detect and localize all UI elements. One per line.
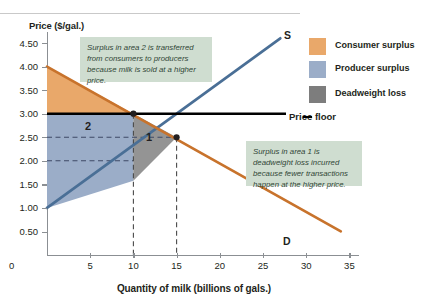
x-tick-20: [220, 253, 221, 258]
legend-item-price-floor: [303, 110, 431, 124]
legend-label-deadweight-loss: Deadweight loss: [335, 88, 406, 98]
y-tick-label-450: 4.50: [8, 38, 38, 49]
x-tick-30: [306, 253, 307, 258]
point-equilibrium: [174, 134, 180, 140]
deadweight-loss-swatch: [309, 86, 326, 103]
y-tick-450: [42, 43, 47, 44]
producer-surplus-swatch: [309, 61, 326, 78]
y-tick-label-150: 1.50: [8, 179, 38, 190]
x-tick-label-20: 20: [208, 260, 232, 271]
y-tick-250: [42, 137, 47, 138]
x-tick-35: [349, 253, 350, 258]
y-tick-label-300: 3.00: [8, 108, 38, 119]
legend-label-producer-surplus: Producer surplus: [335, 63, 410, 73]
y-tick-150: [42, 184, 47, 185]
y-tick-label-400: 4.00: [8, 61, 38, 72]
x-tick-label-15: 15: [165, 260, 189, 271]
x-tick-label-0: 0: [9, 260, 14, 271]
area-label-1: 1: [146, 131, 152, 143]
point-quantity-demanded-at-floor: [130, 111, 136, 117]
y-tick-300: [42, 114, 47, 115]
demand-curve-label: D: [283, 235, 291, 247]
y-tick-label-250: 2.50: [8, 132, 38, 143]
y-tick-label-050: 0.50: [8, 226, 38, 237]
x-tick-label-25: 25: [251, 260, 275, 271]
y-tick-100: [42, 208, 47, 209]
y-tick-050: [42, 232, 47, 233]
x-tick-15: [177, 253, 178, 258]
legend-item-consumer-surplus: Consumer surplus: [309, 37, 431, 60]
supply-curve-label: S: [284, 29, 291, 41]
x-tick-label-35: 35: [337, 260, 361, 271]
y-tick-label-200: 2.00: [8, 155, 38, 166]
x-tick-10: [133, 253, 134, 258]
price-floor-legend-line: [303, 116, 312, 118]
annotation-deadweight: Surplus in area 1 is deadweight loss inc…: [246, 141, 362, 186]
annotation-transfer: Surplus in area 2 is transferred from co…: [80, 37, 212, 82]
legend-label-consumer-surplus: Consumer surplus: [335, 40, 415, 50]
y-tick-350: [42, 90, 47, 91]
deadweight-loss-area: [133, 114, 176, 181]
legend-item-producer-surplus: Producer surplus: [309, 60, 431, 85]
x-tick-label-30: 30: [294, 260, 318, 271]
legend-item-deadweight-loss: Deadweight loss: [309, 85, 431, 110]
x-tick-5: [90, 253, 91, 258]
x-tick-label-10: 10: [121, 260, 145, 271]
x-tick-label-5: 5: [78, 260, 102, 271]
legend: Consumer surplus Producer surplus Deadwe…: [309, 37, 431, 110]
consumer-surplus-swatch: [309, 38, 326, 55]
y-tick-label-350: 3.50: [8, 85, 38, 96]
y-tick-label-100: 1.00: [8, 202, 38, 213]
x-tick-25: [263, 253, 264, 258]
y-tick-200: [42, 161, 47, 162]
y-tick-400: [42, 67, 47, 68]
area-label-2: 2: [85, 120, 91, 132]
supply-demand-price-floor-figure: Price ($/gal.) Quantity of milk (billion…: [0, 0, 431, 303]
